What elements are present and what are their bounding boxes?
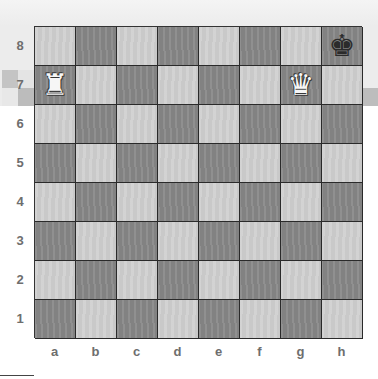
square-c8[interactable] [117,27,158,66]
square-h7[interactable] [322,66,363,105]
square-a3[interactable] [35,222,76,261]
square-h1[interactable] [322,300,363,339]
rank-label-6: 6 [12,116,28,131]
rank-label-4: 4 [12,194,28,209]
rank-label-3: 3 [12,233,28,248]
square-e4[interactable] [199,183,240,222]
square-d7[interactable] [158,66,199,105]
square-c1[interactable] [117,300,158,339]
bottom-edge-decoration [0,375,34,379]
top-background-band [0,0,378,26]
square-h6[interactable] [322,105,363,144]
square-d4[interactable] [158,183,199,222]
square-a8[interactable] [35,27,76,66]
square-a5[interactable] [35,144,76,183]
square-h8[interactable]: ♚ [322,27,363,66]
rank-label-2: 2 [12,272,28,287]
square-h5[interactable] [322,144,363,183]
square-b4[interactable] [76,183,117,222]
file-label-b: b [75,344,116,359]
square-g3[interactable] [281,222,322,261]
square-h2[interactable] [322,261,363,300]
square-e6[interactable] [199,105,240,144]
rank-label-8: 8 [12,38,28,53]
square-d5[interactable] [158,144,199,183]
file-label-a: a [34,344,75,359]
file-label-d: d [157,344,198,359]
square-a7[interactable]: ♜ [35,66,76,105]
square-a2[interactable] [35,261,76,300]
square-c2[interactable] [117,261,158,300]
square-c6[interactable] [117,105,158,144]
square-b8[interactable] [76,27,117,66]
square-f1[interactable] [240,300,281,339]
square-c5[interactable] [117,144,158,183]
square-e7[interactable] [199,66,240,105]
file-label-c: c [116,344,157,359]
square-g2[interactable] [281,261,322,300]
square-f4[interactable] [240,183,281,222]
square-c7[interactable] [117,66,158,105]
square-a6[interactable] [35,105,76,144]
chess-board: ♚♜♛ [34,26,362,338]
square-g7[interactable]: ♛ [281,66,322,105]
square-b3[interactable] [76,222,117,261]
square-d8[interactable] [158,27,199,66]
square-c3[interactable] [117,222,158,261]
square-b1[interactable] [76,300,117,339]
square-g4[interactable] [281,183,322,222]
white-rook-icon[interactable]: ♜ [42,70,69,100]
square-g1[interactable] [281,300,322,339]
square-d3[interactable] [158,222,199,261]
square-f7[interactable] [240,66,281,105]
square-d6[interactable] [158,105,199,144]
square-b5[interactable] [76,144,117,183]
square-f3[interactable] [240,222,281,261]
square-b7[interactable] [76,66,117,105]
square-b2[interactable] [76,261,117,300]
square-c4[interactable] [117,183,158,222]
file-label-g: g [280,344,321,359]
black-king-icon[interactable]: ♚ [329,31,356,61]
square-b6[interactable] [76,105,117,144]
square-f2[interactable] [240,261,281,300]
file-label-h: h [321,344,362,359]
square-e8[interactable] [199,27,240,66]
square-f6[interactable] [240,105,281,144]
square-h3[interactable] [322,222,363,261]
square-e3[interactable] [199,222,240,261]
file-label-e: e [198,344,239,359]
square-e2[interactable] [199,261,240,300]
square-f8[interactable] [240,27,281,66]
square-f5[interactable] [240,144,281,183]
rank-label-5: 5 [12,155,28,170]
square-d1[interactable] [158,300,199,339]
file-label-f: f [239,344,280,359]
square-g5[interactable] [281,144,322,183]
rank-label-1: 1 [12,311,28,326]
square-a1[interactable] [35,300,76,339]
square-g6[interactable] [281,105,322,144]
right-edge-decoration [361,88,378,106]
square-g8[interactable] [281,27,322,66]
square-d2[interactable] [158,261,199,300]
right-background-band [361,26,378,88]
rank-label-7: 7 [12,77,28,92]
square-h4[interactable] [322,183,363,222]
square-e5[interactable] [199,144,240,183]
square-e1[interactable] [199,300,240,339]
square-a4[interactable] [35,183,76,222]
white-queen-icon[interactable]: ♛ [288,70,315,100]
